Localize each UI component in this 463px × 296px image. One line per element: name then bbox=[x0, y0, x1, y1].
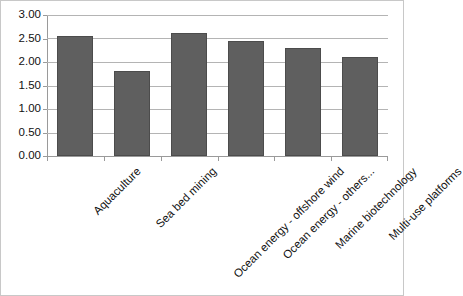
x-axis-tick-label: Multi-use platforms bbox=[386, 165, 463, 242]
y-axis-labels: 0.000.501.001.502.002.503.00 bbox=[1, 1, 41, 296]
bar bbox=[57, 36, 93, 156]
y-axis-tick-label: 0.00 bbox=[1, 150, 41, 162]
x-axis-tick-label: Ocean energy - others... bbox=[280, 165, 376, 261]
y-axis-tick-label: 0.50 bbox=[1, 127, 41, 139]
bar bbox=[342, 57, 378, 156]
bars-layer bbox=[47, 15, 388, 156]
y-axis-tick-label: 3.00 bbox=[1, 9, 41, 21]
x-axis-tick bbox=[331, 156, 332, 161]
x-axis-tick bbox=[161, 156, 162, 161]
x-axis-tick-label: Aquaculture bbox=[91, 165, 143, 217]
bar bbox=[114, 71, 150, 156]
x-axis-tick bbox=[47, 156, 48, 161]
x-axis-ticks bbox=[47, 156, 388, 162]
x-axis-tick bbox=[387, 156, 388, 161]
bar bbox=[171, 33, 207, 156]
bar bbox=[228, 41, 264, 156]
y-axis-tick-label: 1.00 bbox=[1, 103, 41, 115]
y-axis-tick-label: 2.50 bbox=[1, 33, 41, 45]
y-axis-tick-label: 2.00 bbox=[1, 56, 41, 68]
x-axis-tick bbox=[218, 156, 219, 161]
x-axis-tick bbox=[274, 156, 275, 161]
x-axis-tick bbox=[104, 156, 105, 161]
x-axis-tick-label: Ocean energy - offshore wind bbox=[231, 165, 346, 280]
x-axis-tick-label: Sea bed mining bbox=[154, 165, 219, 230]
y-axis-tick-label: 1.50 bbox=[1, 80, 41, 92]
x-axis-tick-label: Marine biotechnology bbox=[333, 165, 419, 251]
bar bbox=[285, 48, 321, 156]
